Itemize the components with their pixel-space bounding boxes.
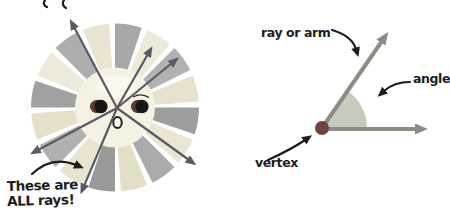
rays-caption: These are ALL rays! [7,177,79,209]
angle-diagram [268,30,417,160]
rays-caption-line2: ALL rays! [7,192,79,209]
ray-or-arm-label: ray or arm [261,25,330,40]
angle-label-annotation-arrow [384,82,410,91]
cropped-title-descender [63,0,66,8]
ray-label-annotation-arrow [332,30,356,49]
sun-eye-left [90,100,108,114]
angle-label: angle [413,71,450,86]
rays-and-angles-illustration: These are ALL rays! ray or arm angle ver… [0,0,450,222]
vertex-dot [315,121,329,135]
sun-rays-diagram [31,0,199,192]
vertex-label: vertex [255,155,298,170]
sun-mouth [113,117,121,128]
cropped-title-descender [44,0,47,7]
